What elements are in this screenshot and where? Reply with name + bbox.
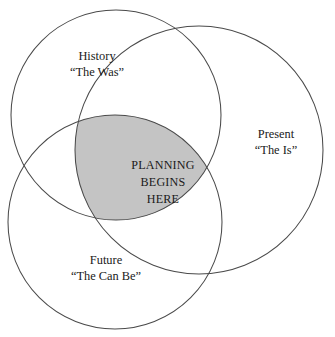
label-history-line1: History (78, 49, 116, 63)
intersection-label-line2: BEGINS (141, 175, 186, 189)
label-future: Future “The Can Be” (71, 253, 141, 283)
intersection-label-line3: HERE (147, 192, 179, 206)
label-present-line1: Present (258, 127, 295, 141)
intersection-label-line1: PLANNING (131, 158, 194, 172)
label-future-line2: “The Can Be” (71, 269, 141, 283)
label-history-line2: “The Was” (70, 65, 124, 79)
label-present: Present “The Is” (255, 127, 297, 157)
venn-diagram-container: History “The Was” Present “The Is” Futur… (0, 0, 335, 337)
label-history: History “The Was” (70, 49, 124, 79)
venn-diagram-svg: History “The Was” Present “The Is” Futur… (0, 0, 335, 337)
label-present-line2: “The Is” (255, 143, 297, 157)
label-future-line1: Future (90, 253, 123, 267)
